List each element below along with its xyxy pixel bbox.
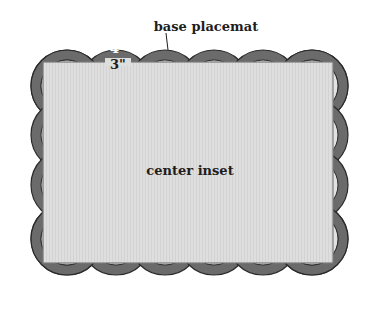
outer-dimension-label: 4": [110, 41, 126, 56]
base-placemat-leader-line: [166, 33, 168, 50]
base-placemat-label: base placemat: [154, 19, 258, 34]
center-inset-label: center inset: [146, 163, 233, 178]
center-inset: [43, 58, 333, 263]
placemat-diagram: base placemat 4" 3" center inset: [0, 0, 380, 309]
inner-dimension-label: 3": [110, 57, 126, 72]
